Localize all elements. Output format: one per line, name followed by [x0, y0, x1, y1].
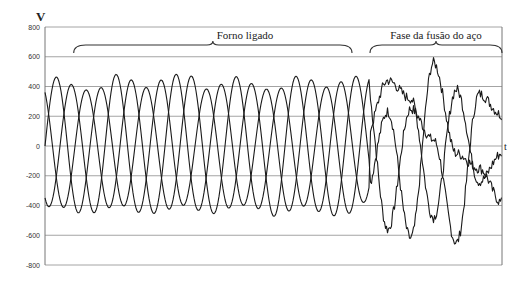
y-tick-label: 400 — [28, 83, 40, 90]
waveform-phase-b — [45, 58, 502, 239]
fase-fusao-brace — [370, 41, 502, 53]
forno-ligado-label: Forno ligado — [217, 29, 274, 41]
voltage-chart: 8006004002000-200-400-600-800 V t Forno … — [0, 0, 529, 283]
y-axis-label: V — [36, 9, 46, 24]
y-tick-label: 200 — [28, 113, 40, 120]
y-tick-label: 0 — [36, 143, 40, 150]
waveforms — [45, 58, 502, 244]
fase-fusao-label: Fase da fusão do aço — [390, 29, 482, 41]
y-tick-label: -800 — [26, 262, 40, 269]
x-axis-label: t — [504, 141, 507, 152]
y-tick-label: 800 — [28, 24, 40, 31]
y-tick-labels: 8006004002000-200-400-600-800 — [26, 24, 40, 269]
y-tick-label: -400 — [26, 202, 40, 209]
waveform-phase-c — [45, 74, 502, 222]
grid-lines — [45, 27, 502, 265]
y-tick-label: -600 — [26, 232, 40, 239]
forno-ligado-brace — [74, 41, 352, 53]
y-tick-label: -200 — [26, 172, 40, 179]
y-tick-label: 600 — [28, 53, 40, 60]
